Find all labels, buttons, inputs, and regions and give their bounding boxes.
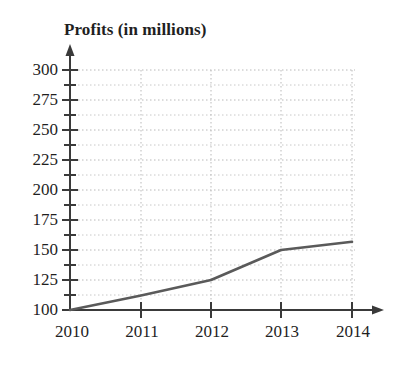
chart-plot-area	[0, 0, 396, 369]
y-axis-label-100: 100	[6, 300, 58, 320]
y-axis-label-275: 275	[6, 90, 58, 110]
y-axis-label-300: 300	[6, 60, 58, 80]
x-axis-label-2012: 2012	[195, 322, 229, 342]
y-axis-label-200: 200	[6, 180, 58, 200]
y-axis-label-125: 125	[6, 270, 58, 290]
y-axis-arrowhead-icon	[66, 44, 75, 56]
y-axis-label-175: 175	[6, 210, 58, 230]
x-axis-label-2010: 2010	[55, 322, 89, 342]
x-axis-arrowhead-icon	[372, 306, 384, 315]
x-axis-label-2011: 2011	[125, 322, 158, 342]
horizontal-gridlines-minor	[70, 85, 355, 295]
horizontal-gridlines-major	[70, 70, 355, 310]
y-axis-label-250: 250	[6, 120, 58, 140]
y-axis-label-150: 150	[6, 240, 58, 260]
y-axis-label-225: 225	[6, 150, 58, 170]
x-axis-label-2014: 2014	[336, 322, 370, 342]
profits-line-chart: Profits (in millions)	[0, 0, 396, 369]
profits-data-line	[70, 242, 352, 310]
x-axis-label-2013: 2013	[265, 322, 299, 342]
